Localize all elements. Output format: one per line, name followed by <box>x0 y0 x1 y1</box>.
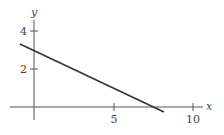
x-tick-label-5: 5 <box>111 113 118 126</box>
x-tick-label-10: 10 <box>186 113 200 126</box>
y-axis-label: y <box>30 6 38 19</box>
y-tick-label-2: 2 <box>20 63 27 76</box>
y-tick-label-4: 4 <box>20 25 27 38</box>
x-axis-label: x <box>206 100 213 113</box>
data-line <box>20 44 164 112</box>
chart: 5 10 2 4 x y <box>0 0 224 135</box>
